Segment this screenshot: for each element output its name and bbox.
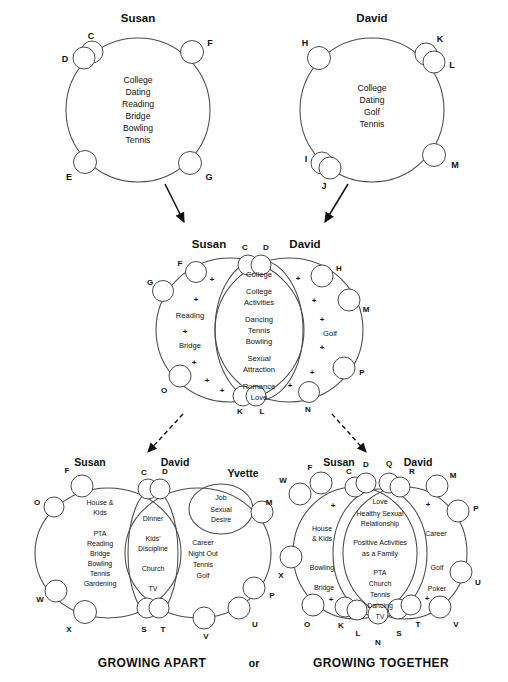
- satellite-circle-D: [73, 47, 95, 69]
- bl-yvette-3: Desire: [211, 516, 231, 523]
- plus-mark: +: [320, 315, 325, 324]
- plus-mark: +: [425, 594, 430, 603]
- satellite-circle-U: [228, 597, 250, 619]
- plus-mark: +: [194, 295, 199, 304]
- label-letter-F: F: [65, 466, 70, 475]
- satellite-circle-G: [153, 281, 174, 302]
- plus-mark: +: [220, 386, 225, 395]
- label-letter-J: J: [321, 181, 326, 191]
- plus-mark: +: [210, 275, 215, 284]
- arrow-susan-to-middle: [165, 184, 184, 222]
- middle-shared-5: Bowling: [246, 337, 273, 346]
- satellite-circle-F: [310, 472, 332, 494]
- satellite-circle-F: [181, 41, 204, 64]
- satellite-circle-X: [74, 601, 97, 624]
- bl-yvette-title: Yvette: [228, 467, 259, 479]
- bl-susan-only-3: PTA: [93, 530, 106, 537]
- label-letter-P: P: [473, 504, 479, 513]
- satellite-circle-G: [179, 152, 202, 175]
- label-letter-W: W: [36, 595, 44, 604]
- label-letter-M: M: [363, 305, 370, 314]
- bl-susan-only-8: Gardening: [84, 580, 117, 588]
- middle-susan-title: Susan: [192, 238, 227, 250]
- middle-susan-only-1: Bridge: [179, 341, 201, 350]
- caption-growing-apart: GROWING APART: [98, 656, 207, 670]
- label-letter-U: U: [475, 578, 481, 587]
- label-letter-H: H: [336, 264, 342, 273]
- label-letter-T: T: [416, 620, 421, 629]
- satellite-circle-D: [150, 479, 170, 499]
- bl-susan-only-1: Kids: [93, 509, 107, 516]
- label-letter-C: C: [346, 467, 352, 476]
- top-susan-item-2: Reading: [122, 99, 154, 109]
- label-letter-U: U: [252, 620, 258, 629]
- label-letter-F: F: [207, 38, 213, 48]
- satellite-circle-T: [149, 598, 169, 618]
- growing-together-group: Susan David F W X O C D Q R M P U V: [278, 456, 481, 647]
- satellite-circle-W: [45, 580, 67, 602]
- label-letter-R: R: [409, 467, 415, 476]
- br-david-only-4: Poker: [428, 585, 447, 592]
- middle-shared-3: Dancing: [245, 315, 273, 324]
- middle-shared-7: Attraction: [243, 365, 275, 374]
- top-susan-item-1: Dating: [126, 87, 151, 97]
- plus-mark: +: [331, 501, 336, 510]
- bl-susan-only-5: Bridge: [90, 550, 110, 558]
- plus-mark: +: [329, 595, 334, 604]
- label-letter-D: D: [62, 54, 69, 64]
- label-letter-S: S: [396, 629, 402, 638]
- middle-shared-2: Activities: [244, 298, 274, 307]
- top-susan-item-4: Bowling: [123, 123, 153, 133]
- satellite-circle-V: [429, 596, 451, 618]
- label-letter-I: I: [305, 154, 308, 164]
- relationship-diagram-svg: Susan C D F E G College Dating Reading B…: [0, 0, 508, 682]
- middle-susan-only-0: Reading: [176, 311, 204, 320]
- br-susan-only-5: Bridge: [314, 584, 334, 592]
- bl-susan-only-7: Tennis: [90, 570, 111, 577]
- caption-growing-together: GROWING TOGETHER: [313, 656, 449, 670]
- label-letter-F: F: [308, 463, 313, 472]
- br-david-only-2: Golf: [431, 564, 444, 571]
- label-letter-P: P: [269, 591, 275, 600]
- label-letter-N: N: [375, 638, 381, 647]
- growing-apart-group: Susan David Yvette F O W X C D S T M P U…: [34, 456, 275, 641]
- label-letter-O: O: [161, 386, 167, 395]
- br-shared-8: Church: [369, 580, 392, 587]
- bl-shared-7: TV: [149, 585, 158, 592]
- satellite-circle-X: [280, 546, 302, 568]
- plus-mark: +: [310, 368, 315, 377]
- label-letter-P: P: [359, 368, 365, 377]
- label-letter-N: N: [305, 405, 311, 414]
- label-letter-V: V: [453, 620, 459, 629]
- label-letter-W: W: [279, 476, 287, 485]
- label-letter-C: C: [242, 243, 248, 252]
- bl-david-only-3: Golf: [197, 572, 210, 579]
- satellite-circle-O: [44, 497, 64, 517]
- label-letter-D: D: [263, 243, 269, 252]
- label-letter-D: D: [363, 460, 369, 469]
- top-susan-title: Susan: [121, 12, 156, 24]
- label-letter-T: T: [161, 625, 166, 634]
- satellite-circle-F: [71, 475, 93, 497]
- arrow-to-growing-together: [332, 414, 366, 452]
- top-david-item-0: College: [357, 83, 386, 93]
- top-david-item-2: Golf: [364, 107, 380, 117]
- label-letter-M: M: [451, 160, 459, 170]
- br-shared-0: Love: [372, 498, 387, 505]
- label-letter-G: G: [147, 278, 153, 287]
- satellite-circle-W: [289, 483, 311, 505]
- satellite-circle-H: [311, 265, 333, 287]
- bl-david-only-0: Career: [192, 539, 214, 546]
- label-letter-L: L: [356, 629, 361, 638]
- br-shared-4: Positive Activities: [353, 539, 407, 546]
- satellite-circle-H: [308, 47, 331, 70]
- br-shared-2: Relationship: [361, 520, 400, 528]
- label-letter-O: O: [304, 620, 310, 629]
- label-letter-D: D: [162, 467, 168, 476]
- middle-shared-8: Romance: [243, 382, 276, 391]
- br-shared-5: as a Family: [362, 550, 398, 558]
- top-susan-group: Susan C D F E G College Dating Reading B…: [62, 12, 214, 182]
- br-shared-11: TV: [376, 613, 385, 620]
- bl-shared-ellipse: [128, 490, 178, 616]
- bl-david-only-2: Tennis: [193, 561, 214, 568]
